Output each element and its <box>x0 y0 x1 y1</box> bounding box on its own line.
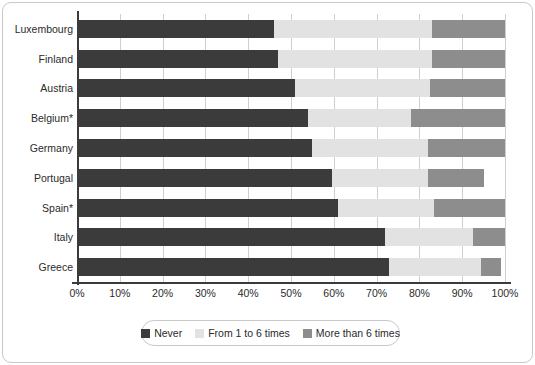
bar-segment <box>473 228 505 246</box>
x-axis-tick-label: 90% <box>452 287 473 299</box>
bar-segment <box>432 20 505 38</box>
legend-item[interactable]: Never <box>141 327 182 339</box>
y-axis-label: Finland <box>1 50 73 68</box>
y-axis-label: Greece <box>1 258 73 276</box>
bar-segment <box>77 20 274 38</box>
x-axis-tick-label: 10% <box>109 287 130 299</box>
bar-segment <box>312 139 428 157</box>
legend-label: From 1 to 6 times <box>208 327 290 339</box>
legend-swatch-icon <box>195 329 204 338</box>
bar-segment <box>77 109 308 127</box>
bar-row <box>77 50 505 68</box>
bar-row <box>77 228 505 246</box>
bar-segment <box>77 79 295 97</box>
gridline <box>505 14 506 282</box>
bar-segment <box>481 258 500 276</box>
y-axis-label: Belgium* <box>1 109 73 127</box>
bar-segment <box>389 258 481 276</box>
plot-area <box>77 14 505 282</box>
bar-segment <box>77 139 312 157</box>
bar-segment <box>295 79 430 97</box>
bar-segment <box>77 169 332 187</box>
bar-segment <box>332 169 428 187</box>
bar-row <box>77 109 505 127</box>
bar-row <box>77 258 505 276</box>
bar-segment <box>432 50 505 68</box>
x-axis-tick-labels: 0%10%20%30%40%50%60%70%80%90%100% <box>77 287 505 303</box>
x-axis-tick-label: 60% <box>323 287 344 299</box>
x-axis-tick-label: 100% <box>492 287 519 299</box>
x-axis-tick-label: 50% <box>280 287 301 299</box>
y-axis-label: Austria <box>1 79 73 97</box>
y-axis-label: Portugal <box>1 169 73 187</box>
legend-swatch-icon <box>303 329 312 338</box>
x-axis-tick-label: 40% <box>238 287 259 299</box>
bar-row <box>77 199 505 217</box>
bar-segment <box>274 20 432 38</box>
bar-segment <box>434 199 505 217</box>
x-axis-tick-label: 0% <box>69 287 84 299</box>
legend-item[interactable]: More than 6 times <box>303 327 400 339</box>
bar-segment <box>411 109 505 127</box>
chart-figure: LuxembourgFinlandAustriaBelgium*GermanyP… <box>0 0 535 365</box>
bar-row <box>77 79 505 97</box>
bar-segment <box>77 258 389 276</box>
bar-segment <box>278 50 432 68</box>
bar-row <box>77 169 505 187</box>
bar-segment <box>77 50 278 68</box>
x-axis-tick-label: 30% <box>195 287 216 299</box>
legend-item[interactable]: From 1 to 6 times <box>195 327 290 339</box>
bar-segment <box>430 79 505 97</box>
bar-segment <box>77 228 385 246</box>
bar-row <box>77 139 505 157</box>
x-axis-line <box>72 282 511 284</box>
y-axis-label: Luxembourg <box>1 20 73 38</box>
legend-label: Never <box>154 327 182 339</box>
y-axis-category-labels: LuxembourgFinlandAustriaBelgium*GermanyP… <box>0 14 73 282</box>
bar-segment <box>428 139 505 157</box>
bar-segment <box>338 199 434 217</box>
bar-segment <box>385 228 473 246</box>
bar-segment <box>308 109 411 127</box>
legend-label: More than 6 times <box>316 327 400 339</box>
y-axis-label: Spain* <box>1 199 73 217</box>
bar-segment <box>428 169 484 187</box>
x-axis-tick-label: 20% <box>152 287 173 299</box>
y-axis-label: Germany <box>1 139 73 157</box>
x-axis-tick-label: 80% <box>409 287 430 299</box>
legend-swatch-icon <box>141 329 150 338</box>
x-axis-tick-label: 70% <box>366 287 387 299</box>
chart-legend: NeverFrom 1 to 6 timesMore than 6 times <box>141 320 400 346</box>
bar-row <box>77 20 505 38</box>
y-axis-label: Italy <box>1 228 73 246</box>
bar-segment <box>77 199 338 217</box>
